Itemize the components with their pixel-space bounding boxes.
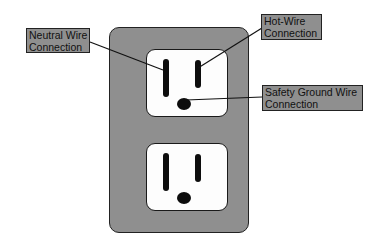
hot-slot [195, 60, 201, 88]
neutral-label-line1: Neutral Wire [29, 30, 87, 42]
top-receptacle [146, 49, 228, 117]
outlet-cover-plate [109, 27, 249, 233]
hot-slot [195, 154, 201, 182]
neutral-label-line2: Connection [29, 42, 87, 54]
hot-label-line2: Connection [264, 28, 319, 40]
neutral-wire-label: Neutral Wire Connection [26, 28, 90, 53]
hot-wire-label: Hot-Wire Connection [261, 14, 322, 40]
ground-label-line1: Safety Ground Wire [265, 87, 360, 99]
neutral-slot [163, 59, 169, 97]
ground-hole [177, 192, 191, 204]
neutral-slot [163, 153, 169, 191]
bottom-receptacle [146, 143, 228, 211]
hot-label-line1: Hot-Wire [264, 16, 319, 28]
safety-ground-label: Safety Ground Wire Connection [262, 85, 363, 111]
ground-hole [177, 98, 191, 110]
ground-label-line2: Connection [265, 99, 360, 111]
